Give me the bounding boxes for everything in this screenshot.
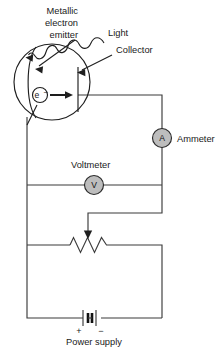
voltmeter-label: Voltmeter (71, 160, 110, 170)
voltmeter[interactable]: V Voltmeter (71, 160, 110, 195)
annotation-labels: Metallic electron emitter Light Collecto… (45, 6, 153, 55)
voltmeter-symbol: V (91, 180, 97, 190)
wire-battery-left (27, 245, 83, 318)
wire-collector-to-ammeter (78, 95, 162, 129)
emitter-label-line2: electron (45, 18, 78, 28)
light-label: Light (108, 28, 129, 38)
variable-resistor[interactable] (70, 231, 110, 253)
ammeter[interactable]: A Ammeter (153, 129, 215, 148)
resistor-zigzag (70, 238, 110, 253)
electron-label: e (35, 90, 40, 100)
power-supply: + − Power supply (66, 310, 122, 347)
battery-minus-sign: − (98, 326, 103, 336)
resistor-wiper-arrow (84, 231, 92, 240)
ammeter-symbol: A (159, 133, 165, 143)
emitter-label-line3: emitter (50, 30, 78, 40)
light-wave (26, 38, 105, 62)
light-wave-path (29, 38, 105, 59)
collector-label: Collector (116, 45, 153, 55)
ammeter-label: Ammeter (177, 134, 215, 144)
electron-symbol: e − (33, 88, 74, 103)
leader-lines (27, 40, 112, 125)
tube-envelope (14, 44, 90, 120)
circuit-wiring (27, 95, 162, 318)
light-arrow-head (26, 55, 34, 62)
collector-leader-line (82, 55, 112, 70)
battery-plus-sign: + (76, 326, 81, 336)
electron-arrow-head (65, 91, 73, 99)
emitter-leader-arrow (35, 66, 43, 73)
power-supply-label: Power supply (66, 337, 122, 347)
photoelectric-effect-diagram: e − A Ammeter (0, 0, 224, 348)
electron-charge-label: − (44, 88, 49, 97)
emitter-terminal-stub (27, 105, 37, 125)
wire-resistor-right-lead (110, 245, 162, 318)
vacuum-tube (14, 44, 90, 120)
emitter-label-line1: Metallic (46, 6, 78, 16)
